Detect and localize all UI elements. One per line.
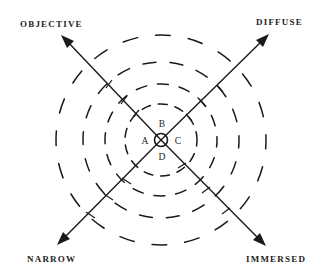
tick-diffuse-3 [200,100,206,107]
quadrant-label-a: A [142,136,149,146]
axis-immersed [161,140,261,241]
axis-objective [66,40,161,140]
axis-label-diffuse: DIFFUSE [256,17,303,27]
axis-label-objective: OBJECTIVE [20,19,83,29]
quadrant-label-d: D [159,152,166,162]
axis-label-narrow: NARROW [27,254,76,264]
axis-diffuse [161,39,264,140]
tick-diffuse-2 [186,114,192,121]
tick-diffuse-4 [217,85,223,92]
quadrant-label-c: C [175,136,181,146]
axis-narrow [62,140,161,240]
tick-immersed-4 [222,208,230,214]
tick-immersed-3 [202,187,210,193]
axis-ticks [86,80,230,218]
axis-label-immersed: IMMERSED [246,254,306,264]
quadrant-label-b: B [159,119,165,129]
quadrant-diagram: A B C D OBJECTIVE DIFFUSE NARROW IMMERSE… [0,0,321,280]
